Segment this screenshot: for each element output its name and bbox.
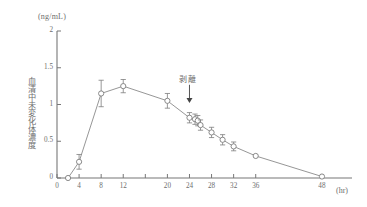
data-series bbox=[65, 80, 324, 181]
x-tick-label: 48 bbox=[310, 182, 334, 190]
y-tick-label: 1 bbox=[27, 100, 53, 108]
x-tick-label: 32 bbox=[222, 182, 246, 190]
x-axis-unit-label: (hr) bbox=[336, 186, 348, 195]
x-tick-label: 12 bbox=[111, 182, 135, 190]
plot-area bbox=[0, 0, 367, 207]
x-tick-label: 24 bbox=[177, 182, 201, 190]
chart-annotation-label: 剥離 bbox=[179, 73, 196, 84]
x-tick-label: 0 bbox=[45, 182, 69, 190]
x-tick-label: 8 bbox=[89, 182, 113, 190]
x-tick-label: 4 bbox=[67, 182, 91, 190]
x-tick-label: 36 bbox=[244, 182, 268, 190]
x-tick-label: 20 bbox=[155, 182, 179, 190]
y-tick-label: 0 bbox=[27, 173, 53, 181]
y-axis-unit-label: (ng/mL) bbox=[38, 12, 66, 21]
y-tick-label: 2 bbox=[27, 26, 53, 34]
x-tick-label: 28 bbox=[200, 182, 224, 190]
annotation-arrow bbox=[186, 85, 192, 103]
y-tick-label: 1.5 bbox=[27, 63, 53, 71]
pharmacokinetic-concentration-chart: (ng/mL) 血清中未変化体濃度 (hr) 04812202428323648… bbox=[0, 0, 367, 207]
y-tick-label: 0.5 bbox=[27, 136, 53, 144]
